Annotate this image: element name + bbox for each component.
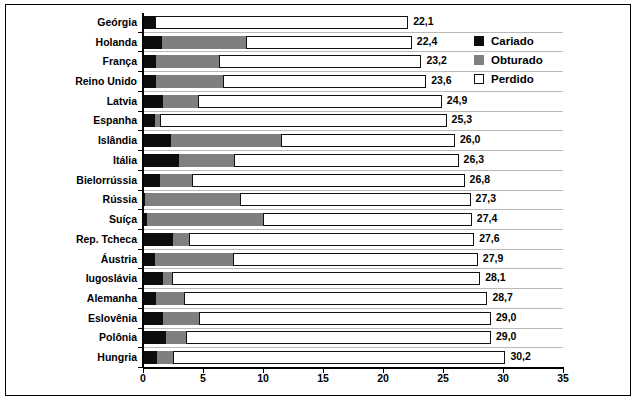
bar-segment-perdido xyxy=(219,55,422,68)
bar-segment-perdido xyxy=(234,154,458,167)
category-label: Islândia xyxy=(98,134,137,147)
bar-segment-cariado xyxy=(143,95,163,108)
bar-stack xyxy=(143,174,465,187)
category-label: Hungria xyxy=(97,351,137,364)
bar-stack xyxy=(143,36,412,49)
y-axis-tick xyxy=(138,268,142,269)
y-axis-tick xyxy=(138,130,142,131)
y-axis-tick xyxy=(138,170,142,171)
bar-segment-perdido xyxy=(184,292,488,305)
bar-value-label: 22,4 xyxy=(417,35,437,48)
bar-segment-cariado xyxy=(143,16,155,29)
bar-stack xyxy=(143,312,491,325)
bar-value-label: 29,0 xyxy=(496,311,516,324)
bar-value-label: 26,3 xyxy=(464,153,484,166)
category-label: Rep. Tcheca xyxy=(76,233,137,246)
category-label: Suíça xyxy=(109,213,137,226)
bar-stack xyxy=(143,114,447,127)
category-label: Reino Unido xyxy=(75,75,137,88)
category-label: Eslovênia xyxy=(88,312,137,325)
bar-segment-obturado xyxy=(171,134,281,147)
bar-segment-cariado xyxy=(143,253,155,266)
bar-segment-obturado xyxy=(156,75,223,88)
bar-segment-perdido xyxy=(173,351,505,364)
bar-segment-obturado xyxy=(179,154,234,167)
y-axis-tick xyxy=(138,328,142,329)
bar-segment-perdido xyxy=(240,193,470,206)
category-label: Iugoslávia xyxy=(86,272,137,285)
category-label: Holanda xyxy=(96,36,137,49)
bar-value-label: 30,2 xyxy=(510,350,530,363)
bar-value-label: 23,6 xyxy=(431,74,451,87)
bar-segment-perdido xyxy=(199,312,491,325)
legend-item-cariado: Cariado xyxy=(474,34,584,48)
gridline xyxy=(143,229,563,230)
x-axis-tick-label: 20 xyxy=(377,372,389,384)
bar-segment-perdido xyxy=(155,16,408,29)
legend-swatch-cariado-icon xyxy=(474,36,484,46)
bar-segment-perdido xyxy=(192,174,464,187)
bar-stack xyxy=(143,55,421,68)
category-label: Rússia xyxy=(103,193,137,206)
gridline xyxy=(143,32,563,33)
bar-stack xyxy=(143,213,472,226)
bar-segment-obturado xyxy=(156,292,184,305)
gridline xyxy=(143,150,563,151)
bar-segment-obturado xyxy=(145,193,240,206)
legend-label: Perdido xyxy=(491,73,534,85)
gridline xyxy=(143,91,563,92)
bar-stack xyxy=(143,134,455,147)
y-axis-tick xyxy=(138,347,142,348)
bar-value-label: 27,9 xyxy=(483,252,503,265)
bar-segment-perdido xyxy=(189,233,475,246)
bar-segment-obturado xyxy=(147,213,263,226)
y-axis-tick xyxy=(138,209,142,210)
y-axis-tick xyxy=(138,308,142,309)
bar-value-label: 28,1 xyxy=(485,271,505,284)
x-axis-tick-label: 15 xyxy=(317,372,329,384)
gridline xyxy=(143,328,563,329)
bar-value-label: 26,8 xyxy=(470,173,490,186)
x-axis-tick-label: 35 xyxy=(557,372,569,384)
x-axis-tick-label: 0 xyxy=(140,372,146,384)
stacked-bar-chart: Geórgia22,1Holanda22,4França23,2Reino Un… xyxy=(0,0,637,401)
legend-swatch-perdido-icon xyxy=(474,74,484,84)
bar-stack xyxy=(143,16,408,29)
bar-segment-perdido xyxy=(160,114,447,127)
gridline xyxy=(143,130,563,131)
bar-segment-cariado xyxy=(143,233,173,246)
bar-value-label: 27,3 xyxy=(476,192,496,205)
bar-stack xyxy=(143,154,459,167)
bar-value-label: 25,3 xyxy=(452,113,472,126)
category-label: Alemanha xyxy=(87,292,137,305)
bar-segment-cariado xyxy=(143,154,179,167)
bar-value-label: 27,6 xyxy=(479,232,499,245)
gridline xyxy=(143,170,563,171)
gridline xyxy=(143,347,563,348)
category-label: França xyxy=(103,55,137,68)
y-axis-tick xyxy=(138,367,142,368)
y-axis-tick xyxy=(138,91,142,92)
y-axis-tick xyxy=(138,71,142,72)
bar-segment-cariado xyxy=(143,292,156,305)
category-label: Itália xyxy=(113,154,137,167)
y-axis-tick xyxy=(138,51,142,52)
category-label: Espanha xyxy=(93,114,137,127)
y-axis-line xyxy=(142,13,144,368)
bar-segment-cariado xyxy=(143,312,163,325)
bar-stack xyxy=(143,193,471,206)
bar-stack xyxy=(143,253,478,266)
y-axis-tick xyxy=(138,288,142,289)
bar-segment-cariado xyxy=(143,55,156,68)
bar-segment-cariado xyxy=(143,75,156,88)
bar-stack xyxy=(143,292,487,305)
bar-stack xyxy=(143,331,491,344)
category-label: Geórgia xyxy=(97,16,137,29)
bar-stack xyxy=(143,233,474,246)
bar-stack xyxy=(143,272,480,285)
bar-value-label: 28,7 xyxy=(492,291,512,304)
y-axis-tick xyxy=(138,32,142,33)
y-axis-tick xyxy=(138,150,142,151)
y-axis-tick xyxy=(138,111,142,112)
y-axis-tick xyxy=(138,229,142,230)
